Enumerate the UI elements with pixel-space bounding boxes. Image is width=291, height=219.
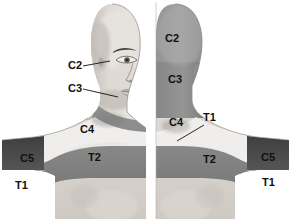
label-t1-anterior: T1 <box>15 179 28 191</box>
dermatome-illustration: C2 C3 C4 T2 C5 T1 C2 C3 C4 T1 T2 C5 T1 <box>0 0 291 219</box>
label-c3-posterior: C3 <box>168 73 182 85</box>
label-t2-anterior: T2 <box>88 151 101 163</box>
pupil <box>126 59 128 61</box>
label-c2-posterior: C2 <box>165 32 179 44</box>
neck-shadow <box>92 113 124 127</box>
label-c4-anterior: C4 <box>80 123 95 135</box>
dermatome-figure: C2 C3 C4 T2 C5 T1 C2 C3 C4 T1 T2 C5 T1 <box>0 0 291 219</box>
label-c3-anterior: C3 <box>68 82 82 94</box>
label-c4-posterior: C4 <box>169 116 184 128</box>
scapula-shading <box>196 184 224 208</box>
label-c5-posterior: C5 <box>261 151 275 163</box>
label-t2-posterior: T2 <box>203 153 216 165</box>
label-c5-anterior: C5 <box>20 152 34 164</box>
label-t1-posterior: T1 <box>262 176 275 188</box>
axilla-shading <box>70 184 98 208</box>
label-t1-upper-posterior: T1 <box>203 111 216 123</box>
label-c2-anterior: C2 <box>68 59 82 71</box>
